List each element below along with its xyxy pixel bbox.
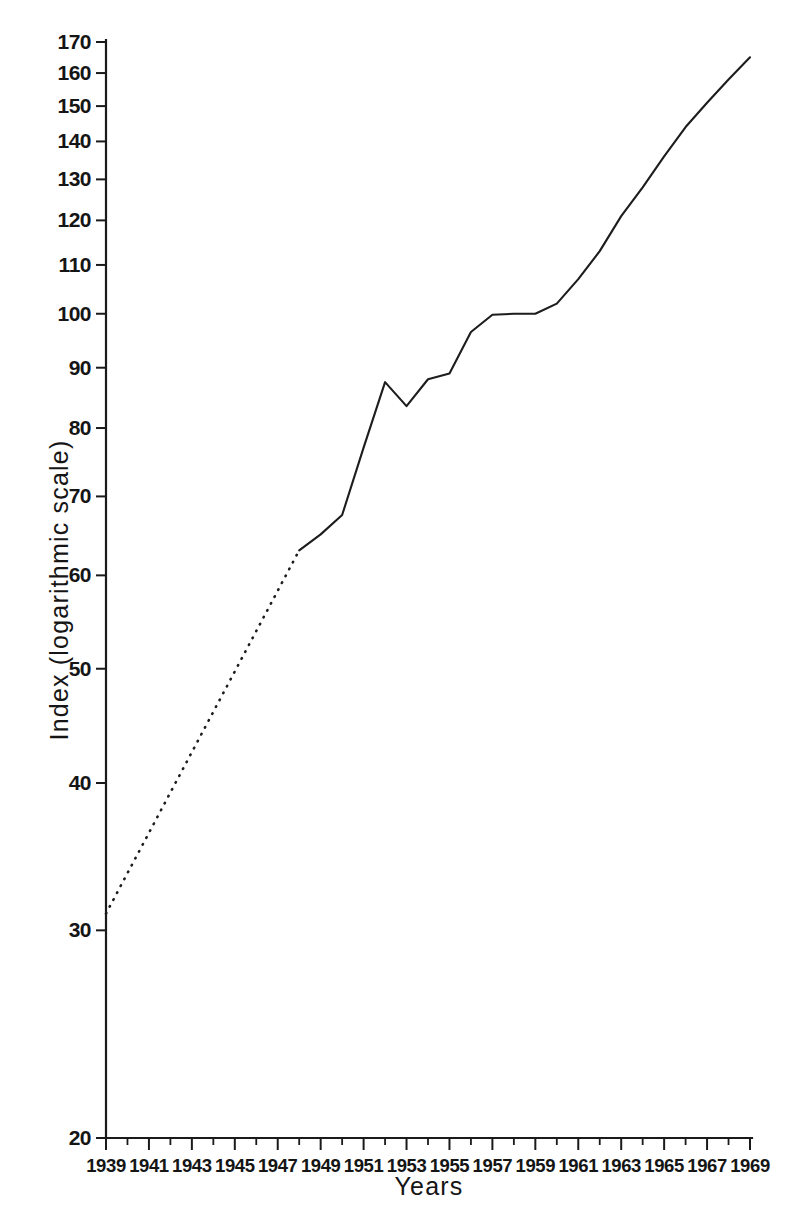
y-axis-title: Index (logarithmic scale) [45,440,73,741]
x-tick-label: 1957 [473,1155,513,1176]
x-tick-label: 1969 [730,1155,770,1176]
y-tick-label: 160 [57,61,91,84]
x-tick-label: 1967 [687,1155,727,1176]
y-tick-label: 140 [57,129,91,152]
x-tick-label: 1949 [301,1155,341,1176]
x-tick-label: 1939 [86,1155,126,1176]
x-tick-label: 1951 [344,1155,384,1176]
y-tick-label: 80 [69,416,91,439]
y-tick-label: 90 [69,356,91,379]
x-axis-title: Years [394,1172,463,1200]
x-tick-label: 1961 [558,1155,598,1176]
x-tick-label: 1941 [129,1155,169,1176]
y-tick-label: 170 [57,30,91,53]
y-tick-label: 20 [69,1126,91,1149]
x-tick-label: 1947 [258,1155,298,1176]
x-tick-label: 1965 [644,1155,684,1176]
x-tick-label: 1963 [601,1155,641,1176]
y-tick-label: 30 [69,918,91,941]
chart-root: 2030405060708090100110120130140150160170… [0,0,805,1231]
line-chart: 2030405060708090100110120130140150160170… [0,0,805,1231]
x-tick-label: 1943 [172,1155,212,1176]
y-tick-label: 40 [69,771,91,794]
x-tick-label: 1959 [516,1155,556,1176]
y-tick-label: 130 [57,167,91,190]
chart-background [0,0,805,1231]
y-tick-label: 150 [57,94,91,117]
y-tick-label: 110 [59,253,91,276]
y-tick-label: 100 [57,302,91,325]
x-tick-label: 1945 [215,1155,255,1176]
y-tick-label: 120 [57,208,91,231]
